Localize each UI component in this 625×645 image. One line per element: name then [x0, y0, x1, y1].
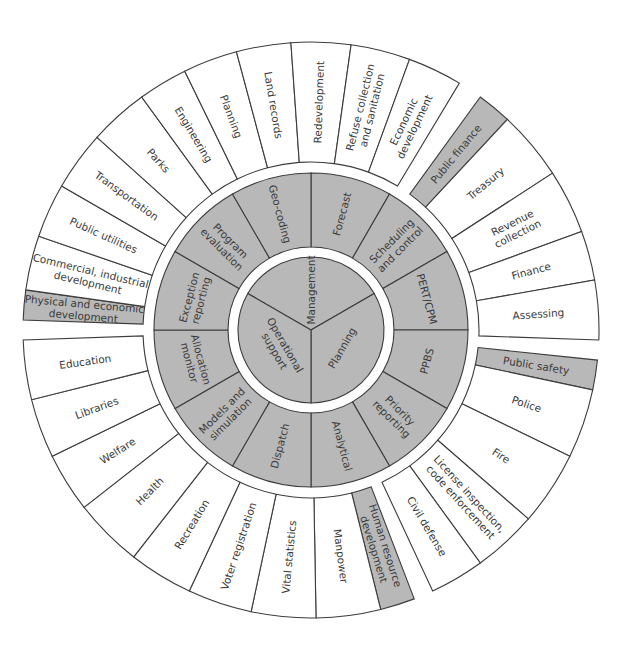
government-functions-wheel: Public financeTreasuryRevenuecollectionF…	[0, 0, 625, 645]
core-label-management: Management	[305, 255, 317, 324]
core-circle-categories: ManagementPlanningOperationalsupport	[238, 255, 384, 403]
